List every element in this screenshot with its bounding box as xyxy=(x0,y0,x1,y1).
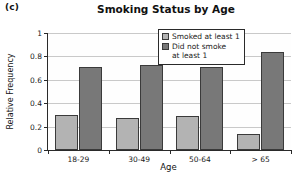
y-tick-label: 0 xyxy=(37,146,42,155)
legend-label: Did not smoke at least 1 xyxy=(172,42,226,60)
figure: (c) Smoking Status by Age Relative Frequ… xyxy=(0,0,296,180)
bar xyxy=(176,116,199,150)
legend-swatch-icon xyxy=(162,33,169,40)
legend-item: Did not smoke at least 1 xyxy=(162,42,240,60)
y-tick-mark xyxy=(44,80,48,81)
bar xyxy=(55,115,78,150)
y-tick-label: 0.8 xyxy=(30,52,42,61)
bar xyxy=(79,67,102,150)
legend-swatch-icon xyxy=(162,43,169,50)
chart-title: Smoking Status by Age xyxy=(40,3,292,15)
legend: Smoked at least 1Did not smoke at least … xyxy=(158,29,245,65)
y-tick-mark xyxy=(44,33,48,34)
x-tick-mark xyxy=(48,150,49,154)
y-axis-title: Relative Frequency xyxy=(6,33,18,150)
bar xyxy=(116,118,139,150)
bar xyxy=(200,67,223,150)
x-tick-mark xyxy=(230,150,231,154)
y-tick-mark xyxy=(44,103,48,104)
y-tick-label: 0.4 xyxy=(30,99,42,108)
y-tick-label: 1 xyxy=(37,29,42,38)
x-tick-mark xyxy=(291,150,292,154)
y-tick-mark xyxy=(44,56,48,57)
y-tick-label: 0.2 xyxy=(30,122,42,131)
y-tick-label: 0.6 xyxy=(30,75,42,84)
bar xyxy=(261,52,284,150)
x-axis-title: Age xyxy=(47,162,290,172)
bar xyxy=(237,134,260,150)
legend-item: Smoked at least 1 xyxy=(162,32,240,41)
y-tick-mark xyxy=(44,127,48,128)
x-tick-mark xyxy=(170,150,171,154)
panel-label: (c) xyxy=(5,2,19,12)
x-tick-mark xyxy=(109,150,110,154)
bar xyxy=(140,65,163,150)
legend-label: Smoked at least 1 xyxy=(172,32,240,41)
